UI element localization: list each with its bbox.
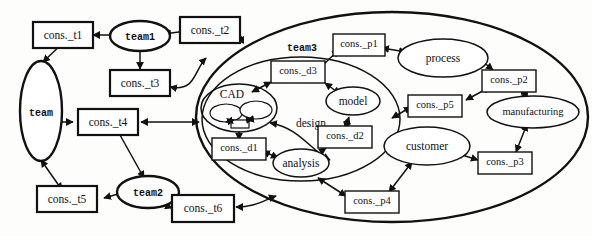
node-analysis[interactable]: analysis [273, 149, 329, 177]
node-cons-t2[interactable]: cons._t2 [180, 17, 240, 43]
node-cons-p1[interactable]: cons._p1 [333, 34, 385, 56]
node-cons-t5[interactable]: cons._t5 [37, 186, 97, 212]
node-model[interactable]: model [326, 87, 380, 115]
node-cons-p3[interactable]: cons._p3 [478, 152, 532, 174]
node-team1[interactable]: team1 [110, 21, 170, 51]
node-cons-t1-label: cons._t1 [44, 29, 83, 41]
node-customer-label: customer [406, 140, 448, 152]
node-cons-d1-label: cons._d1 [220, 142, 258, 153]
container-cad[interactable]: CAD [201, 84, 277, 132]
edge-const4-team2 [120, 135, 144, 178]
node-process[interactable]: process [398, 39, 488, 77]
edge-customer-constp4 [389, 162, 412, 192]
node-model-label: model [339, 95, 368, 107]
node-process-label: process [426, 52, 461, 65]
node-cons-d2[interactable]: cons._d2 [318, 126, 372, 148]
node-team2[interactable]: team2 [117, 176, 179, 208]
node-cons-t6-label: cons._t6 [184, 202, 223, 214]
node-cons-t4-label: cons._t4 [89, 116, 128, 128]
node-cons-p1-label: cons._p1 [340, 38, 378, 49]
node-cons-d2-label: cons._d2 [326, 130, 364, 141]
diagram-canvas: team3 design CAD [0, 0, 592, 236]
node-cons-t1[interactable]: cons._t1 [33, 22, 93, 48]
node-cons-d3[interactable]: cons._d3 [271, 61, 325, 83]
node-cons-d3-label: cons._d3 [279, 65, 317, 76]
diagram-svg: team3 design CAD [0, 0, 592, 236]
edge-constp4-design [318, 178, 346, 196]
node-cons-t3[interactable]: cons._t3 [110, 70, 170, 96]
node-cons-p2-label: cons._p2 [490, 74, 528, 85]
node-cons-p2[interactable]: cons._p2 [482, 70, 536, 92]
node-analysis-label: analysis [282, 157, 320, 170]
node-cons-t6[interactable]: cons._t6 [172, 195, 234, 222]
cad-inner-box[interactable] [231, 120, 249, 128]
node-team2-label: team2 [133, 188, 163, 199]
cad-sub-ellipse-a[interactable] [210, 104, 242, 122]
node-manufacturing[interactable]: manufacturing [487, 96, 579, 128]
node-customer[interactable]: customer [384, 127, 470, 165]
edge-cad-constd3 [252, 82, 271, 92]
edge-const3-team3 [170, 58, 206, 88]
node-cons-t5-label: cons._t5 [48, 193, 87, 205]
node-team-label: team [29, 108, 53, 119]
node-team1-label: team1 [125, 32, 155, 43]
node-cons-t2-label: cons._t2 [191, 24, 230, 36]
container-team3-label: team3 [287, 43, 317, 54]
node-cons-t4[interactable]: cons._t4 [78, 109, 138, 135]
node-cons-d1[interactable]: cons._d1 [212, 138, 266, 160]
node-cons-p3-label: cons._p3 [486, 156, 524, 167]
edge-cadsubb-cadbox [247, 119, 253, 120]
node-cons-p4[interactable]: cons._p4 [345, 191, 399, 213]
container-cad-label: CAD [220, 88, 244, 100]
node-cons-p5[interactable]: cons._p5 [408, 95, 462, 117]
cad-sub-ellipse-b[interactable] [240, 101, 272, 119]
node-cons-t3-label: cons._t3 [121, 77, 160, 89]
node-manufacturing-label: manufacturing [502, 106, 564, 117]
node-team[interactable]: team [20, 61, 62, 161]
node-cons-p5-label: cons._p5 [416, 99, 454, 110]
node-cons-p4-label: cons._p4 [353, 195, 391, 206]
edge-const6-team3 [236, 196, 276, 207]
